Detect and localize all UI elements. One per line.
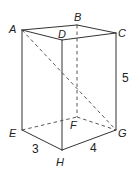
- label-H: H: [56, 156, 64, 168]
- dimension-HG: 4: [90, 141, 97, 155]
- edge-FG: [77, 117, 116, 130]
- edge-AB: [22, 25, 77, 30]
- visible-edges: [22, 25, 116, 150]
- label-A: A: [8, 23, 16, 35]
- dimension-EH: 3: [32, 142, 39, 156]
- label-D: D: [58, 28, 66, 40]
- edge-EH: [22, 130, 62, 150]
- edge-DC: [62, 33, 116, 40]
- edge-BC: [77, 25, 116, 33]
- label-B: B: [74, 11, 81, 23]
- diagonal-AG: [22, 30, 116, 130]
- vertex-labels: A B C D E F G H: [8, 11, 127, 168]
- hidden-edges: [22, 25, 116, 130]
- label-E: E: [9, 127, 17, 139]
- label-F: F: [70, 119, 78, 131]
- dimension-CG: 5: [122, 71, 129, 85]
- label-C: C: [118, 27, 126, 39]
- rectangular-prism-diagram: A B C D E F G H 3 4 5: [0, 0, 137, 174]
- edge-HG: [62, 130, 116, 150]
- edge-EF: [22, 117, 77, 130]
- label-G: G: [118, 127, 127, 139]
- edge-AD: [22, 30, 62, 40]
